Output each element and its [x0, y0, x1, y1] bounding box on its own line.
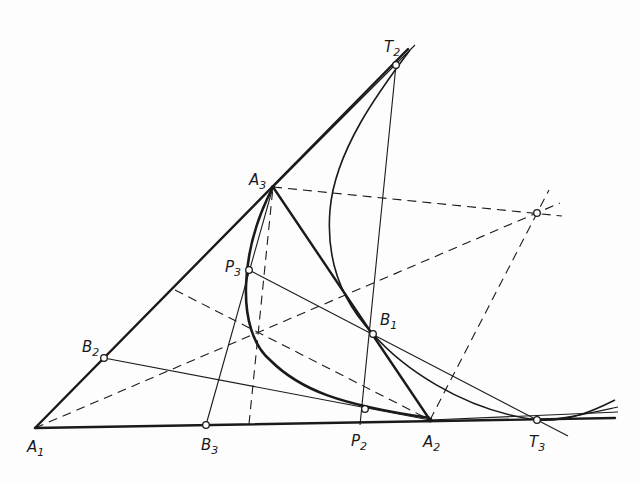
- label-t2: T2: [384, 38, 400, 59]
- construction-lines: [104, 45, 618, 436]
- label-p2: P2: [351, 432, 367, 453]
- side-a1-baseline: [35, 418, 615, 428]
- label-b1: B1: [380, 311, 397, 332]
- dash-a3-x: [273, 187, 562, 216]
- label-a3: A3: [248, 171, 266, 192]
- label-b2: B2: [82, 338, 99, 359]
- line-p3-t3: [249, 270, 568, 436]
- triangle-sides: [35, 49, 615, 428]
- conic-upper: [329, 50, 615, 420]
- point-t3: [534, 417, 541, 424]
- line-b3-a3: [206, 187, 273, 425]
- point-p3: [246, 267, 253, 274]
- point-t2: [393, 62, 400, 69]
- point-p2: [362, 406, 369, 413]
- dash-vertical: [249, 187, 273, 424]
- points: [101, 62, 541, 429]
- geometry-diagram: A1 A2 A3 B1 B2 B3 P2 P3 T2 T3: [0, 0, 639, 482]
- point-a2: [428, 418, 433, 423]
- label-a1: A1: [26, 438, 44, 459]
- dash-a2-x: [430, 190, 549, 420]
- labels: A1 A2 A3 B1 B2 B3 P2 P3 T2 T3: [26, 38, 545, 459]
- side-a3-a2: [273, 187, 430, 420]
- point-b1: [370, 331, 377, 338]
- conic-thick: [246, 187, 430, 418]
- label-b3: B3: [201, 436, 218, 457]
- point-a3: [271, 185, 275, 189]
- point-b2: [101, 355, 108, 362]
- point-x: [534, 210, 541, 217]
- label-a2: A2: [422, 433, 440, 454]
- label-p3: P3: [225, 258, 241, 279]
- label-t3: T3: [529, 433, 545, 454]
- point-b3: [203, 422, 210, 429]
- line-p2-t2: [360, 65, 396, 425]
